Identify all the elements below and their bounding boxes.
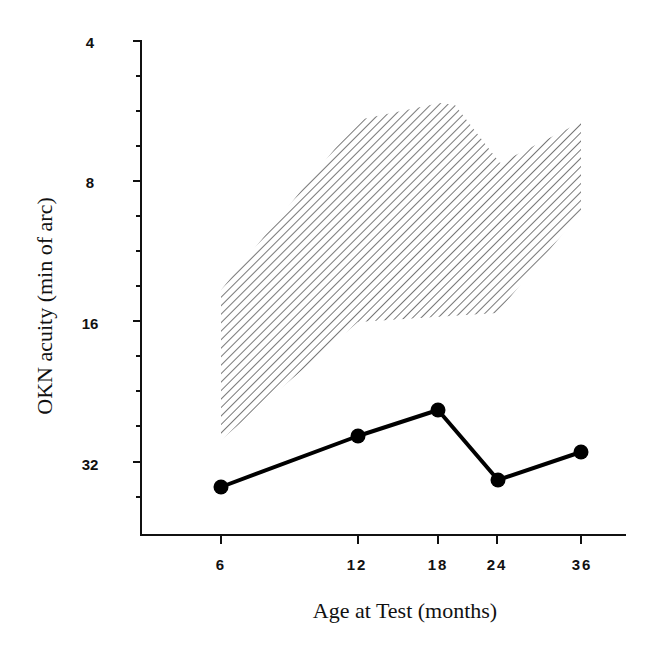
- x-tick-18: 18: [428, 556, 449, 573]
- x-tick-24: 24: [487, 556, 508, 573]
- data-point-36mo: [574, 445, 589, 460]
- x-axis-title: Age at Test (months): [313, 598, 497, 623]
- y-tick-16: 16: [82, 315, 99, 332]
- okn-acuity-chart: 4 8 16 32 6 12 18 24 36 Age at Test (mon…: [0, 0, 652, 653]
- x-tick-36: 36: [572, 556, 593, 573]
- acuity-line: [221, 410, 581, 487]
- data-point-24mo: [491, 473, 506, 488]
- x-tick-12: 12: [347, 556, 368, 573]
- y-tick-32: 32: [82, 456, 99, 473]
- y-axis-title: OKN acuity (min of arc): [32, 197, 57, 414]
- data-points: [214, 403, 589, 495]
- x-tick-6: 6: [216, 556, 224, 573]
- y-axis: [133, 40, 141, 536]
- data-point-12mo: [351, 429, 366, 444]
- data-point-6mo: [214, 480, 229, 495]
- y-tick-4: 4: [86, 34, 95, 51]
- data-point-18mo: [431, 403, 446, 418]
- x-axis: [140, 535, 626, 544]
- y-tick-8: 8: [86, 174, 94, 191]
- normal-range-region: [221, 103, 581, 440]
